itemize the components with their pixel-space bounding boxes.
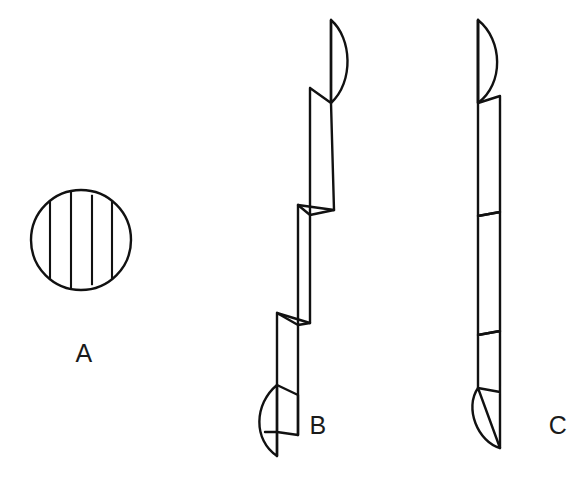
figure-label-a: A: [75, 339, 92, 367]
line-diagram-svg: A B C: [0, 0, 583, 478]
figure-label-c: C: [549, 411, 568, 439]
figure-label-b: B: [309, 411, 326, 439]
figure-canvas: A B C: [0, 0, 583, 478]
